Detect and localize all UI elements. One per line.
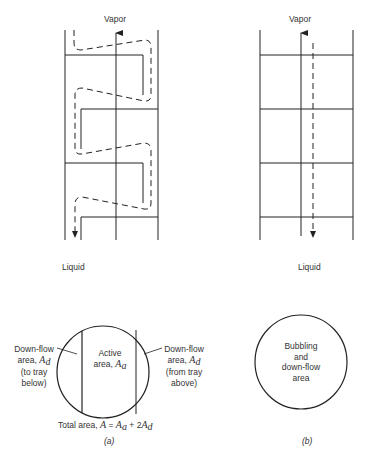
label-line: down-flow xyxy=(277,362,325,373)
diagram-canvas xyxy=(0,0,375,462)
label-line: area xyxy=(277,373,325,384)
bubbling-downflow-area-label: Bubbling and down-flow area xyxy=(277,341,325,383)
leader-left xyxy=(57,348,77,354)
label-line: area, Aa xyxy=(88,359,132,372)
label-line: (from tray xyxy=(160,367,208,378)
label-line: area, Ad xyxy=(10,355,58,368)
liquid-outlet-arrowhead xyxy=(72,231,78,238)
liquid-label-a: Liquid xyxy=(62,262,85,273)
label-line: area, Ad xyxy=(160,355,208,368)
liquid-flow-path xyxy=(74,30,151,236)
dualflow-column xyxy=(260,30,353,240)
crossflow-tray-section xyxy=(57,326,162,418)
downflow-to-tray-below-label: Down-flow area, Ad (to tray below) xyxy=(10,344,58,388)
downflow-from-tray-above-label: Down-flow area, Ad (from tray above) xyxy=(160,344,208,388)
label-line: Bubbling xyxy=(277,341,325,352)
panel-a-caption: (a) xyxy=(104,436,114,447)
vapor-label-b: Vapor xyxy=(289,14,311,25)
label-line: Active xyxy=(88,348,132,359)
panel-b-caption: (b) xyxy=(302,436,312,447)
total-area-formula: Total area, A = Aa + 2Ad xyxy=(58,420,153,433)
label-line: Down-flow xyxy=(10,344,58,355)
label-line: below) xyxy=(10,378,58,389)
active-area-label: Active area, Aa xyxy=(88,348,132,371)
liquid-label-b: Liquid xyxy=(298,262,321,273)
liquid-outlet-arrowhead xyxy=(310,231,316,238)
label-line: Down-flow xyxy=(160,344,208,355)
label-line: (to tray xyxy=(10,367,58,378)
crossflow-column xyxy=(65,30,158,240)
label-line: and xyxy=(277,352,325,363)
vapor-label-a: Vapor xyxy=(104,14,126,25)
label-line: above) xyxy=(160,378,208,389)
tray-circle xyxy=(57,326,149,418)
